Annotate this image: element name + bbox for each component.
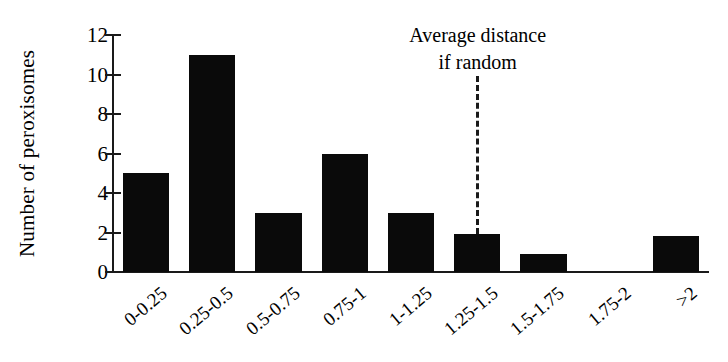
x-tick-label: 1.5-1.75 (505, 283, 568, 340)
x-tick-label: 1-1.25 (372, 283, 435, 340)
x-tick-label: >2 (637, 283, 700, 340)
x-tick-label: 1.25-1.5 (439, 283, 502, 340)
x-tick-label: 0.5-0.75 (240, 283, 303, 340)
x-tick-label: 0.25-0.5 (174, 283, 237, 340)
x-tick-label: 0-0.25 (108, 283, 171, 340)
x-tick-label: 0.75-1 (306, 283, 369, 340)
x-tick-label: 1.75-2 (571, 283, 634, 340)
x-axis-tick-labels: 0-0.250.25-0.50.5-0.750.75-11-1.251.25-1… (0, 0, 728, 362)
bar-chart-figure: Number of peroxisomes 12 10 8 6 4 2 0 Av… (0, 0, 728, 362)
